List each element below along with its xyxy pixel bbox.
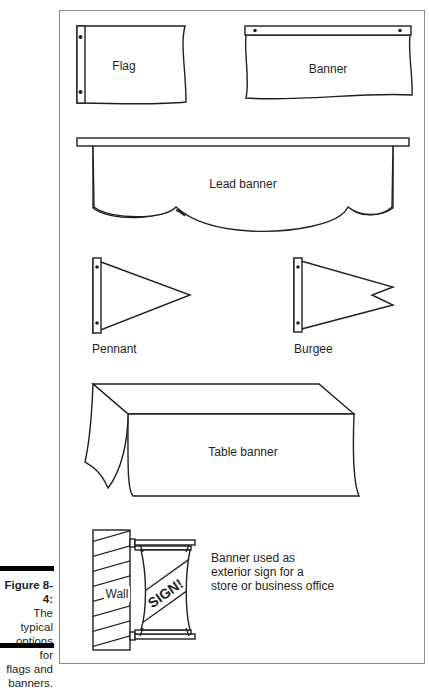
banner-label: Banner [309,62,348,76]
flag-label: Flag [112,59,135,73]
wall-label: Wall [106,587,129,601]
banner-illustration: Banner [245,26,412,99]
lead-banner-illustration: Lead banner [77,138,409,231]
caption-line: banners. [0,676,53,690]
table-banner-illustration: Table banner [85,384,359,496]
exterior-sign-illustration: Wall SIGN! Banner used as exterior sign … [80,528,335,665]
exterior-sign-description-line: store or business office [211,579,335,593]
exterior-sign-description-line: Banner used as [211,551,295,565]
flag-illustration: Flag [77,26,186,104]
pennant-label: Pennant [92,342,137,356]
burgee-label: Burgee [294,342,333,356]
burgee-illustration: Burgee [294,258,393,356]
table-banner-label: Table banner [208,445,277,459]
lead-banner-label: Lead banner [209,177,276,191]
pennant-illustration: Pennant [92,258,190,356]
exterior-sign-description-line: exterior sign for a [211,565,304,579]
